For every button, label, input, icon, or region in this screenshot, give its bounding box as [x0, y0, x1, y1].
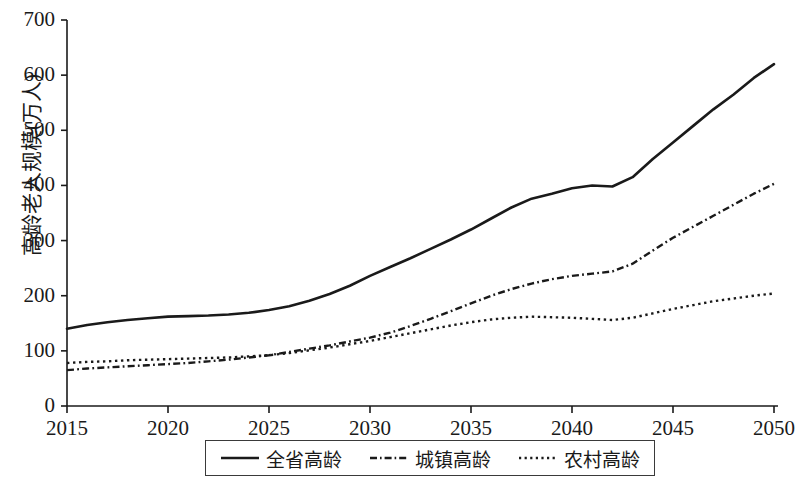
x-tick-label: 2040: [539, 418, 605, 439]
x-tick-label: 2050: [741, 418, 800, 439]
x-tick-label: 2030: [337, 418, 403, 439]
y-tick-label: 600: [9, 64, 55, 85]
legend-label-2: 农村高龄: [564, 445, 640, 472]
y-tick-label: 200: [9, 285, 55, 306]
series-line-1: [67, 184, 774, 370]
series-line-2: [67, 294, 774, 363]
legend-swatch-solid-icon: [220, 452, 260, 464]
legend-swatch-dotted-icon: [518, 452, 558, 464]
y-tick-label: 400: [9, 174, 55, 195]
x-tick-label: 2025: [236, 418, 302, 439]
y-tick-label: 500: [9, 119, 55, 140]
series-line-0: [67, 64, 774, 329]
legend-swatch-dashdot-icon: [369, 452, 409, 464]
chart-series: [67, 64, 774, 370]
chart-legend: 全省高龄 城镇高龄 农村高龄: [205, 440, 655, 476]
chart-axes: [61, 20, 778, 413]
x-tick-label: 2015: [34, 418, 100, 439]
legend-item-0: 全省高龄: [220, 445, 342, 472]
x-tick-label: 2020: [135, 418, 201, 439]
chart-container: 高龄老人规模(万人) 0100200300400500600700 201520…: [0, 0, 800, 481]
chart-plot-area: [0, 0, 800, 481]
legend-label-0: 全省高龄: [266, 445, 342, 472]
y-tick-label: 100: [9, 340, 55, 361]
y-tick-label: 300: [9, 230, 55, 251]
x-tick-label: 2035: [438, 418, 504, 439]
x-tick-label: 2045: [640, 418, 706, 439]
legend-label-1: 城镇高龄: [415, 445, 491, 472]
y-tick-label: 700: [9, 9, 55, 30]
y-tick-label: 0: [9, 395, 55, 416]
legend-item-1: 城镇高龄: [369, 445, 491, 472]
legend-item-2: 农村高龄: [518, 445, 640, 472]
